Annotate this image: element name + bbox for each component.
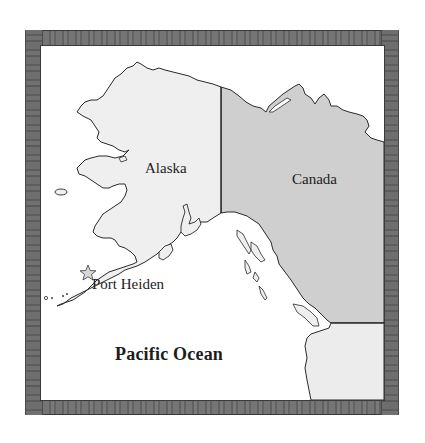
map-canvas: Alaska Canada Port Heiden Pacific Ocean	[41, 46, 384, 400]
nunivak-island	[55, 189, 67, 195]
aleutian-islet	[62, 295, 64, 297]
aleutian-islet	[44, 296, 47, 299]
canada-label: Canada	[292, 171, 337, 188]
pacific-ocean-label: Pacific Ocean	[115, 344, 223, 365]
aleutian-islet	[66, 293, 68, 295]
usa-region	[305, 323, 384, 400]
alaska-label: Alaska	[145, 160, 187, 177]
port-heiden-label: Port Heiden	[92, 276, 164, 293]
alaska-region	[57, 62, 221, 306]
aleutian-islet	[51, 297, 53, 299]
canada-region	[221, 84, 384, 323]
